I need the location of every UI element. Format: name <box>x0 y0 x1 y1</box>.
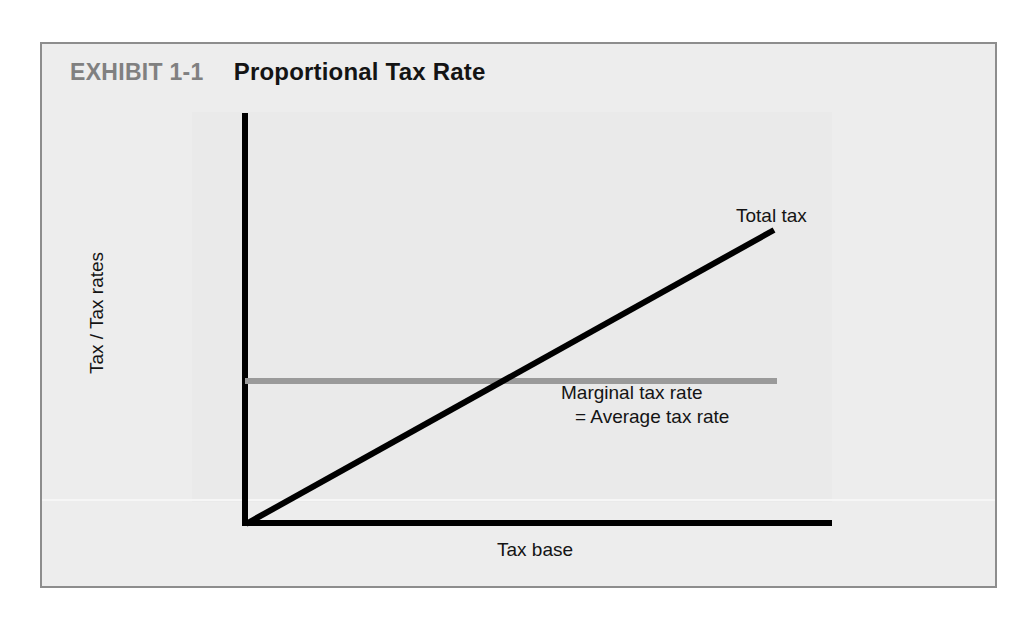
x-axis-label: Tax base <box>497 538 573 562</box>
exhibit-panel: EXHIBIT 1-1 Proportional Tax Rate Total … <box>40 42 997 588</box>
marginal-tax-rate-text: Marginal tax rate <box>561 382 703 403</box>
page-root: EXHIBIT 1-1 Proportional Tax Rate Total … <box>0 0 1030 627</box>
proportional-tax-rate-chart <box>42 44 999 590</box>
total-tax-annotation: Total tax <box>736 204 807 228</box>
y-axis-label: Tax / Tax rates <box>86 223 108 403</box>
average-tax-rate-text: = Average tax rate <box>561 405 729 429</box>
marginal-average-rate-annotation: Marginal tax rate = Average tax rate <box>561 381 729 430</box>
total-tax-line <box>246 230 774 524</box>
